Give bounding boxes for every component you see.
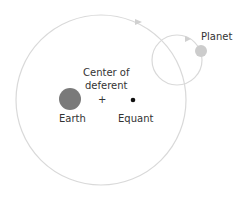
equant-label: Equant <box>118 113 153 124</box>
equant-dot <box>131 98 136 103</box>
planet-label: Planet <box>201 31 232 42</box>
center-of-deferent-mark: + <box>98 94 106 105</box>
epicycle-circle <box>152 35 202 85</box>
planet-dot <box>195 45 207 57</box>
center-of-deferent-label-line2: deferent <box>85 80 127 91</box>
center-of-deferent-label-line1: Center of <box>83 67 129 78</box>
ptolemaic-model-diagram <box>0 0 237 197</box>
earth-label: Earth <box>59 113 86 124</box>
earth-dot <box>59 88 81 110</box>
